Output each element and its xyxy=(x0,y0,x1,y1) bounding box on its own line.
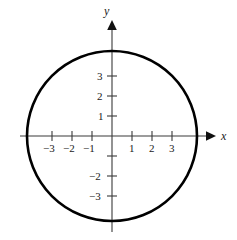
x-tick-label--1: −1 xyxy=(83,143,95,154)
y-tick-label-1: 1 xyxy=(98,111,104,122)
coordinate-plane-svg xyxy=(0,0,237,240)
y-tick-label--3: −3 xyxy=(89,191,101,202)
x-axis-label: x xyxy=(221,130,226,142)
y-axis-label: y xyxy=(104,5,109,17)
y-tick-label-3: 3 xyxy=(97,71,103,82)
graph-figure: −3 −2 −1 1 2 3 3 2 1 −2 −3 y x xyxy=(0,0,237,240)
x-tick-label-3: 3 xyxy=(169,143,175,154)
x-tick-label-2: 2 xyxy=(149,143,155,154)
y-axis-arrowhead xyxy=(107,20,117,30)
x-axis-arrowhead xyxy=(206,131,216,141)
y-tick-label-2: 2 xyxy=(97,91,103,102)
x-tick-label--2: −2 xyxy=(63,143,75,154)
x-tick-label--3: −3 xyxy=(43,143,55,154)
x-tick-label-1: 1 xyxy=(129,143,135,154)
y-tick-label--2: −2 xyxy=(89,171,101,182)
